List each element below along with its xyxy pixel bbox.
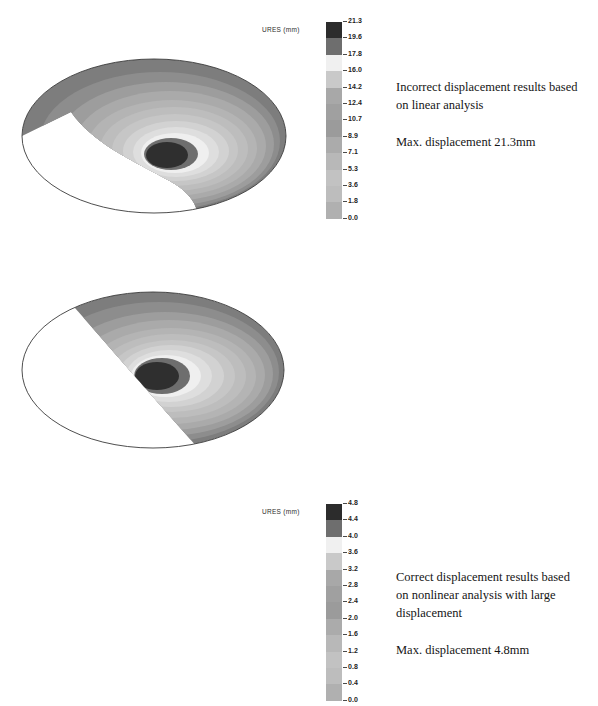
legend-swatch-linear-4 <box>326 88 342 104</box>
legend-tick-linear-7 <box>343 136 347 137</box>
legend-swatch-linear-1 <box>326 38 342 54</box>
legend-swatch-linear-3 <box>326 71 342 87</box>
caption-nonlinear-line2: on nonlinear analysis with large <box>396 586 594 604</box>
caption-spacer <box>396 114 594 133</box>
legend-tick-linear-0 <box>343 21 347 22</box>
legend-tick-linear-4 <box>343 87 347 88</box>
legend-label-linear-7: 8.9 <box>348 132 358 139</box>
legend-tick-nonlinear-9 <box>343 651 347 652</box>
legend-tick-linear-8 <box>343 152 347 153</box>
caption-spacer <box>396 622 594 641</box>
legend-label-nonlinear-10: 0.8 <box>348 663 358 670</box>
legend-swatch-linear-10 <box>326 186 342 202</box>
contour-plot-nonlinear <box>8 280 298 460</box>
legend-label-nonlinear-6: 2.4 <box>348 597 358 604</box>
legend-tick-nonlinear-4 <box>343 569 347 570</box>
contour-plot-linear-svg <box>8 48 298 228</box>
legend-label-nonlinear-0: 4.8 <box>348 499 358 506</box>
legend-swatch-nonlinear-1 <box>326 520 342 536</box>
legend-tick-nonlinear-6 <box>343 601 347 602</box>
legend-colorbar-nonlinear: 4.84.44.03.63.22.82.42.01.61.20.80.40.0 <box>326 504 382 706</box>
legend-label-nonlinear-9: 1.2 <box>348 647 358 654</box>
legend-label-nonlinear-8: 1.6 <box>348 630 358 637</box>
legend-label-linear-11: 1.8 <box>348 197 358 204</box>
legend-tick-nonlinear-1 <box>343 519 347 520</box>
caption-nonlinear-max: Max. displacement 4.8mm <box>396 641 594 659</box>
legend-tick-linear-12 <box>343 218 347 219</box>
legend-label-nonlinear-4: 3.2 <box>348 565 358 572</box>
legend-nonlinear: URES (mm) 4.84.44.03.63.22.82.42.01.61.2… <box>262 500 382 706</box>
legend-label-nonlinear-7: 2.0 <box>348 614 358 621</box>
caption-nonlinear-line3: displacement <box>396 604 594 622</box>
legend-label-linear-8: 7.1 <box>348 148 358 155</box>
legend-band-linear-12: 0.0 <box>326 219 382 235</box>
caption-linear-line1: Incorrect displacement results based <box>396 78 594 96</box>
legend-swatch-nonlinear-4 <box>326 570 342 586</box>
legend-swatch-nonlinear-9 <box>326 652 342 668</box>
legend-label-nonlinear-5: 2.8 <box>348 581 358 588</box>
legend-swatch-linear-7 <box>326 137 342 153</box>
caption-linear: Incorrect displacement results based on … <box>396 78 594 151</box>
legend-swatch-nonlinear-8 <box>326 635 342 651</box>
legend-label-linear-10: 3.6 <box>348 181 358 188</box>
legend-label-nonlinear-3: 3.6 <box>348 548 358 555</box>
legend-tick-nonlinear-2 <box>343 536 347 537</box>
legend-tick-linear-1 <box>343 37 347 38</box>
caption-linear-line2: on linear analysis <box>396 96 594 114</box>
legend-label-nonlinear-12: 0.0 <box>348 696 358 703</box>
legend-tick-nonlinear-11 <box>343 683 347 684</box>
legend-tick-linear-2 <box>343 54 347 55</box>
legend-label-linear-9: 5.3 <box>348 165 358 172</box>
legend-swatch-nonlinear-10 <box>326 668 342 684</box>
legend-swatch-linear-2 <box>326 55 342 71</box>
legend-colorbar-linear: 21.319.617.816.014.212.410.78.97.15.33.6… <box>326 22 382 235</box>
contour-plot-nonlinear-svg <box>8 280 298 460</box>
legend-swatch-linear-6 <box>326 120 342 136</box>
panel-nonlinear-analysis: URES (mm) 4.84.44.03.63.22.82.42.01.61.2… <box>0 250 598 500</box>
legend-swatch-nonlinear-5 <box>326 586 342 602</box>
legend-title-nonlinear: URES (mm) <box>262 508 320 515</box>
legend-label-nonlinear-11: 0.4 <box>348 679 358 686</box>
legend-swatch-nonlinear-0 <box>326 504 342 520</box>
legend-swatch-nonlinear-11 <box>326 684 342 700</box>
legend-swatch-linear-8 <box>326 153 342 169</box>
legend-tick-linear-6 <box>343 119 347 120</box>
contour-bands-nonlinear <box>8 280 298 460</box>
contour-plot-linear <box>8 48 298 228</box>
legend-swatch-nonlinear-2 <box>326 537 342 553</box>
legend-tick-nonlinear-12 <box>343 700 347 701</box>
legend-tick-linear-5 <box>343 103 347 104</box>
legend-tick-nonlinear-10 <box>343 667 347 668</box>
panel-linear-analysis: URES (mm) 21.319.617.816.014.212.410.78.… <box>0 0 598 250</box>
contour-bands-linear <box>8 48 298 228</box>
caption-nonlinear-line1: Correct displacement results based <box>396 568 594 586</box>
caption-linear-max: Max. displacement 21.3mm <box>396 133 594 151</box>
legend-tick-nonlinear-3 <box>343 552 347 553</box>
legend-title-linear: URES (mm) <box>262 26 320 33</box>
legend-label-linear-2: 17.8 <box>348 50 362 57</box>
legend-label-linear-4: 14.2 <box>348 83 362 90</box>
legend-label-linear-5: 12.4 <box>348 99 362 106</box>
legend-swatch-linear-0 <box>326 22 342 38</box>
legend-swatch-linear-9 <box>326 170 342 186</box>
legend-label-nonlinear-2: 4.0 <box>348 532 358 539</box>
legend-tick-linear-9 <box>343 169 347 170</box>
legend-label-linear-0: 21.3 <box>348 17 362 24</box>
legend-swatch-linear-11 <box>326 202 342 218</box>
legend-swatch-nonlinear-3 <box>326 553 342 569</box>
legend-label-nonlinear-1: 4.4 <box>348 515 358 522</box>
legend-label-linear-3: 16.0 <box>348 66 362 73</box>
legend-tick-nonlinear-7 <box>343 618 347 619</box>
legend-tick-nonlinear-5 <box>343 585 347 586</box>
legend-label-linear-12: 0.0 <box>348 214 358 221</box>
legend-swatch-linear-5 <box>326 104 342 120</box>
legend-band-nonlinear-12: 0.0 <box>326 701 382 706</box>
legend-tick-nonlinear-8 <box>343 634 347 635</box>
legend-label-linear-1: 19.6 <box>348 33 362 40</box>
legend-swatch-nonlinear-7 <box>326 619 342 635</box>
legend-tick-linear-11 <box>343 201 347 202</box>
legend-linear: URES (mm) 21.319.617.816.014.212.410.78.… <box>262 18 382 243</box>
legend-tick-linear-10 <box>343 185 347 186</box>
legend-label-linear-6: 10.7 <box>348 115 362 122</box>
caption-nonlinear: Correct displacement results based on no… <box>396 568 594 660</box>
